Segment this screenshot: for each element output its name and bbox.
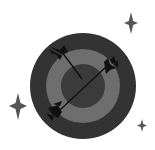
dartboard-icon <box>30 33 136 139</box>
target-illustration <box>0 0 155 150</box>
